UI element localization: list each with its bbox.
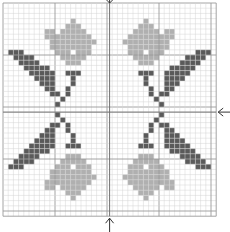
stitch-cell — [185, 60, 190, 65]
stitch-cell — [133, 159, 138, 164]
stitch-cell — [164, 45, 169, 50]
stitch-cell — [29, 71, 34, 76]
stitch-cell — [34, 76, 39, 81]
stitch-cell — [180, 138, 185, 143]
stitch-cell — [65, 169, 70, 174]
stitch-cell — [60, 169, 65, 174]
stitch-cell — [29, 55, 34, 60]
stitch-cell — [138, 190, 143, 195]
stitch-cell — [138, 143, 143, 148]
stitch-cell — [76, 39, 81, 44]
stitch-cell — [201, 159, 206, 164]
stitch-cell — [24, 60, 29, 65]
stitch-cell — [195, 60, 200, 65]
stitch-cell — [185, 55, 190, 60]
stitch-cell — [76, 34, 81, 39]
stitch-cell — [76, 159, 81, 164]
stitch-cell — [143, 55, 148, 60]
stitch-cell — [206, 50, 211, 55]
stitch-cell — [71, 60, 76, 65]
stitch-cell — [81, 50, 86, 55]
stitch-cell — [180, 149, 185, 154]
stitch-cell — [154, 45, 159, 50]
stitch-cell — [143, 24, 148, 29]
stitch-cell — [50, 169, 55, 174]
stitch-cell — [13, 55, 18, 60]
stitch-cell — [149, 91, 154, 96]
stitch-cell — [81, 185, 86, 190]
stitch-cell — [50, 39, 55, 44]
stitch-cell — [8, 50, 13, 55]
stitch-cell — [76, 50, 81, 55]
stitch-cell — [50, 138, 55, 143]
stitch-cell — [55, 175, 60, 180]
stitch-cell — [159, 102, 164, 107]
stitch-cell — [128, 39, 133, 44]
stitch-cell — [71, 55, 76, 60]
stitch-cell — [71, 29, 76, 34]
stitch-cell — [175, 65, 180, 70]
stitch-cell — [24, 159, 29, 164]
stitch-cell — [39, 149, 44, 154]
stitch-cell — [169, 29, 174, 34]
stitch-cell — [169, 34, 174, 39]
stitch-cell — [169, 138, 174, 143]
stitch-cell — [143, 19, 148, 24]
stitch-cell — [159, 45, 164, 50]
stitch-cell — [24, 154, 29, 159]
stitch-cell — [154, 34, 159, 39]
stitch-cell — [128, 180, 133, 185]
stitch-cell — [50, 133, 55, 138]
stitch-cell — [29, 149, 34, 154]
stitch-cell — [81, 164, 86, 169]
stitch-cell — [133, 39, 138, 44]
stitch-cell — [128, 34, 133, 39]
stitch-cell — [81, 45, 86, 50]
stitch-cell — [71, 133, 76, 138]
stitch-cell — [143, 159, 148, 164]
stitch-cell — [133, 175, 138, 180]
stitch-cell — [65, 45, 70, 50]
stitch-cell — [71, 76, 76, 81]
stitch-cell — [55, 102, 60, 107]
stitch-cell — [86, 34, 91, 39]
stitch-cell — [34, 154, 39, 159]
stitch-cell — [76, 154, 81, 159]
stitch-cell — [86, 50, 91, 55]
stitch-cell — [149, 45, 154, 50]
stitch-cell — [86, 169, 91, 174]
stitch-cell — [128, 175, 133, 180]
stitch-cell — [159, 50, 164, 55]
stitch-cell — [180, 76, 185, 81]
stitch-cell — [65, 39, 70, 44]
stitch-cell — [143, 39, 148, 44]
stitch-cell — [175, 76, 180, 81]
stitch-cell — [149, 39, 154, 44]
stitch-cell — [149, 24, 154, 29]
stitch-cell — [149, 164, 154, 169]
stitch-cell — [24, 55, 29, 60]
stitch-cell — [34, 71, 39, 76]
stitch-cell — [185, 143, 190, 148]
stitch-cell — [50, 71, 55, 76]
stitch-cell — [175, 138, 180, 143]
stitch-cell — [169, 81, 174, 86]
stitch-cell — [60, 55, 65, 60]
stitch-cell — [128, 169, 133, 174]
stitch-cell — [164, 91, 169, 96]
stitch-cell — [45, 128, 50, 133]
stitch-cell — [65, 55, 70, 60]
stitch-cell — [81, 159, 86, 164]
stitch-cell — [164, 175, 169, 180]
stitch-cell — [143, 175, 148, 180]
stitch-cell — [143, 185, 148, 190]
stitch-cell — [154, 185, 159, 190]
stitch-cell — [143, 34, 148, 39]
stitch-cell — [143, 195, 148, 200]
stitch-cell — [190, 154, 195, 159]
stitch-cell — [86, 45, 91, 50]
stitch-cell — [138, 50, 143, 55]
stitch-cell — [60, 164, 65, 169]
stitch-cell — [91, 39, 96, 44]
stitch-cell — [65, 50, 70, 55]
